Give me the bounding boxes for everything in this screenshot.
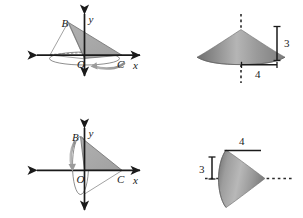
shaded-triangle-bottom: [81, 137, 123, 170]
label-o-top: O: [77, 58, 85, 70]
panel-bottom-left: B y O C x: [37, 127, 140, 210]
label-o-bottom: O: [77, 173, 85, 185]
panel-top-left: B y O C x: [37, 13, 140, 76]
label-b-top: B: [62, 17, 69, 29]
label-x-bottom: x: [132, 174, 138, 186]
panel-top-right: 3 4: [197, 14, 290, 83]
panel-bottom-right: 4 3: [199, 135, 292, 208]
math-figure-canvas: B y O C x 3 4: [0, 0, 303, 218]
cone-body-top: [197, 30, 285, 65]
label-b-bottom: B: [72, 131, 79, 143]
label-c-bottom: C: [117, 173, 125, 185]
cone-body-bottom: [219, 150, 266, 208]
label-y-top: y: [88, 13, 94, 25]
rotation-arrowhead-top: [91, 62, 98, 69]
label-y-bottom: y: [88, 127, 94, 139]
label-length-bottom: 4: [239, 135, 245, 147]
label-x-top: x: [132, 59, 138, 71]
figure-root: B y O C x 3 4: [0, 0, 303, 218]
label-height-top: 3: [284, 37, 290, 49]
label-radius-bottom: 3: [199, 163, 205, 175]
label-c-top: C: [117, 58, 125, 70]
label-radius-top: 4: [255, 68, 261, 80]
